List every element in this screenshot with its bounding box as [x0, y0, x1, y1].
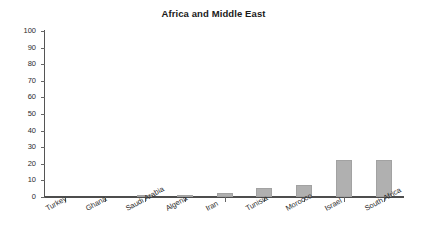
y-tick-mark [41, 197, 45, 198]
plot-area [45, 31, 404, 197]
y-tick-label: 0 [6, 192, 36, 201]
x-tick-mark [344, 197, 345, 202]
x-tick-label: Israel [323, 196, 343, 213]
bar [336, 160, 352, 197]
y-tick-label: 40 [6, 126, 36, 135]
bar-chart: Africa and Middle East 01020304050607080… [0, 0, 427, 245]
y-tick-label: 30 [6, 142, 36, 151]
chart-title: Africa and Middle East [0, 8, 427, 19]
y-tick-label: 10 [6, 175, 36, 184]
x-tick-mark [225, 197, 226, 202]
y-tick-label: 90 [6, 43, 36, 52]
y-tick-label: 80 [6, 59, 36, 68]
x-tick-label: Iran [204, 199, 220, 213]
y-tick-label: 70 [6, 76, 36, 85]
y-tick-label: 100 [6, 26, 36, 35]
y-tick-label: 60 [6, 92, 36, 101]
y-tick-label: 20 [6, 159, 36, 168]
y-tick-label: 50 [6, 109, 36, 118]
